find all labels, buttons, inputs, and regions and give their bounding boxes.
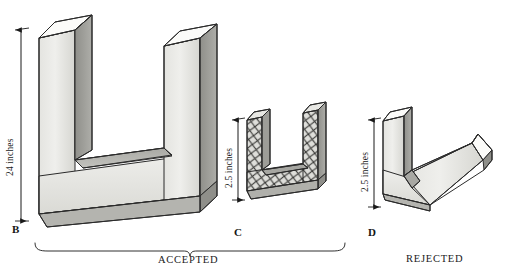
figure-artwork — [0, 0, 516, 272]
dimension-label-d: 2.5 inches — [360, 152, 370, 192]
object-label-b: B — [12, 224, 20, 235]
verdict-rejected-label: REJECTED — [406, 253, 463, 264]
verdict-accepted-label: ACCEPTED — [158, 254, 218, 265]
object-b-shape — [39, 15, 217, 227]
dimension-line-b — [15, 28, 29, 221]
figure-canvas: B C D 24 inches 2.5 inches 2.5 inches AC… — [0, 0, 516, 272]
object-label-d: D — [368, 227, 376, 238]
dimension-label-c: 2.5 inches — [224, 148, 234, 188]
dimension-label-b: 24 inches — [5, 139, 15, 177]
object-label-c: C — [234, 227, 242, 238]
